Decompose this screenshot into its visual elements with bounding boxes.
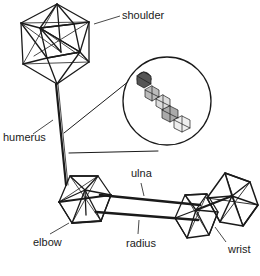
label-wrist-text: wrist (227, 243, 251, 255)
label-humerus: humerus (3, 120, 53, 143)
humerus-bone (56, 84, 68, 185)
elbow-icosahedron (59, 176, 111, 223)
wrist-icosahedron-back (196, 173, 258, 226)
wrist-icosahedron-front (175, 194, 218, 238)
inset-magnified-view (123, 57, 211, 145)
label-radius: radius (126, 220, 156, 249)
label-ulna: ulna (131, 167, 153, 196)
label-radius-text: radius (126, 237, 156, 249)
radius-bone (96, 212, 198, 220)
label-wrist: wrist (215, 227, 251, 255)
label-humerus-text: humerus (3, 131, 46, 143)
arm-linkage-diagram: shoulder humerus elbow ulna radius wrist (0, 0, 260, 276)
label-shoulder-text: shoulder (122, 9, 165, 21)
shoulder-icosahedron (21, 4, 89, 84)
label-elbow: elbow (33, 223, 69, 248)
label-ulna-text: ulna (131, 167, 153, 179)
label-shoulder: shoulder (94, 9, 165, 24)
label-elbow-text: elbow (33, 236, 62, 248)
